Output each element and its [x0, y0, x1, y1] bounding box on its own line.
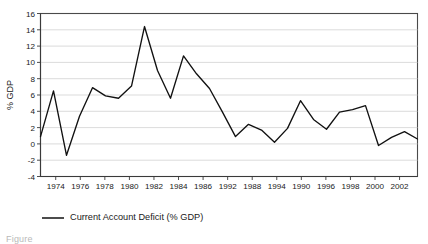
y-tick-label: 14 — [26, 26, 36, 35]
x-tick-label: 1986 — [194, 182, 213, 191]
y-tick-label: 6 — [30, 91, 35, 100]
chart-legend: Current Account Deficit (% GDP) — [42, 212, 203, 222]
y-tick-label: 16 — [26, 10, 36, 19]
y-tick-label: 4 — [30, 107, 35, 116]
y-tick-label: 0 — [30, 140, 35, 149]
y-tick-label: -2 — [28, 156, 36, 165]
y-axis-title: % GDP — [5, 80, 15, 110]
y-tick-label: 10 — [26, 58, 36, 67]
x-tick-label: 1996 — [317, 182, 336, 191]
x-tick-label: 1998 — [341, 182, 360, 191]
figure-caption: Figure — [6, 234, 33, 244]
x-tick-label: 1994 — [268, 182, 287, 191]
y-axis-ticks: 1614121086420-2-4 — [26, 10, 41, 182]
x-tick-label: 1992 — [219, 182, 238, 191]
x-tick-label: 1976 — [71, 182, 90, 191]
x-tick-label: 1974 — [47, 182, 66, 191]
y-tick-label: 12 — [26, 42, 36, 51]
y-tick-label: 8 — [30, 75, 35, 84]
x-tick-label: 2000 — [366, 182, 385, 191]
x-tick-label: 1984 — [170, 182, 189, 191]
y-tick-label: -4 — [28, 173, 36, 182]
x-tick-label: 1982 — [145, 182, 164, 191]
x-tick-label: 2002 — [391, 182, 410, 191]
x-tick-label: 1990 — [292, 182, 311, 191]
x-tick-label: 1988 — [243, 182, 262, 191]
x-tick-label: 1980 — [120, 182, 139, 191]
legend-label: Current Account Deficit (% GDP) — [70, 212, 203, 222]
x-axis-ticks: 1974197619781980198219841986199219881994… — [47, 177, 409, 192]
x-tick-label: 1978 — [96, 182, 115, 191]
y-tick-label: 2 — [30, 124, 35, 133]
